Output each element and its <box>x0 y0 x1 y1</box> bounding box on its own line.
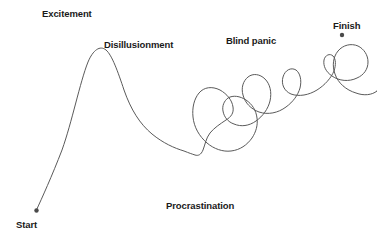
label-finish: Finish <box>333 20 360 31</box>
label-start: Start <box>16 219 37 230</box>
label-excitement: Excitement <box>42 8 92 19</box>
label-procrastination: Procrastination <box>166 200 234 211</box>
label-disillusionment: Disillusionment <box>104 39 173 50</box>
start-point-dot <box>34 208 38 212</box>
label-blind-panic: Blind panic <box>226 35 276 46</box>
finish-point-dot <box>340 33 344 37</box>
progress-line <box>36 45 377 211</box>
